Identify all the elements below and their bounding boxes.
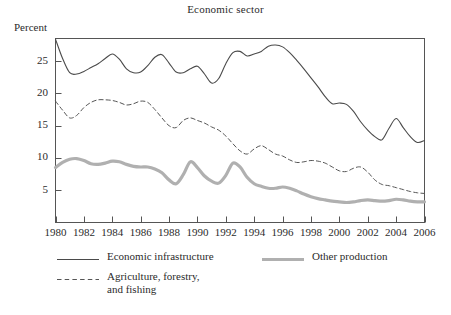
legend-label-economic-infrastructure: Economic infrastructure	[107, 250, 214, 263]
chart-figure: Economic sector Percent 510152025 198019…	[0, 0, 451, 315]
x-axis-ticks	[57, 217, 426, 223]
legend-swatch-solid-thick-icon	[262, 251, 304, 263]
legend-swatch-dashed-icon	[57, 271, 99, 283]
series-line	[56, 100, 425, 194]
data-series-group	[56, 39, 425, 202]
y-tick-label: 25	[22, 54, 48, 66]
plot-frame	[56, 39, 425, 223]
series-line	[56, 39, 425, 142]
y-tick-label: 15	[22, 118, 48, 130]
y-tick-label: 20	[22, 86, 48, 98]
y-tick-label: 10	[22, 150, 48, 162]
y-axis-ticks	[56, 62, 62, 191]
legend-item-other-production[interactable]: Other production	[262, 250, 387, 263]
y-tick-label: 5	[22, 183, 48, 195]
legend-label-other-production: Other production	[312, 250, 387, 263]
x-tick-label: 2006	[408, 226, 442, 238]
legend-item-agriculture-forestry-fishing[interactable]: Agriculture, forestry, and fishing	[57, 270, 199, 295]
legend-item-economic-infrastructure[interactable]: Economic infrastructure	[57, 250, 214, 263]
series-line	[56, 159, 425, 203]
legend-label-agriculture-forestry-fishing: Agriculture, forestry, and fishing	[107, 270, 199, 295]
legend-swatch-solid-thin-icon	[57, 251, 99, 263]
chart-legend: Economic infrastructure Agriculture, for…	[0, 248, 451, 310]
